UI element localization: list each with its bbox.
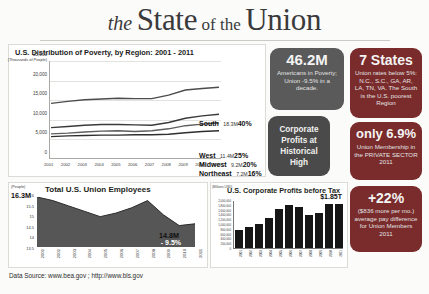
profits-y-tick: 800,000 [221,228,231,232]
union-y-tick: 15 [30,214,34,219]
poverty-x-tick: 2009 [178,162,187,167]
union-x-tick: 2001 [40,249,45,258]
profits-y-tick: 200,000 [221,242,231,246]
union-x-tick: 2010 [182,249,187,258]
poverty-x-tick: 2006 [128,162,137,167]
poverty-y-tick-25000: 25,000 [33,52,47,57]
profits-bar [285,205,292,248]
profits-x-tick: 2007 [299,250,303,257]
profits-bar [255,224,262,248]
profits-peak-value: $1.85T [320,193,342,200]
page-title: the State of the Union [0,2,429,42]
profits-x-tick: 2005 [279,250,283,257]
profits-bar [305,215,312,248]
profits-y-tick: 1,600,000 [218,209,231,213]
infographic-page: the State of the Union U.S. Distribution… [0,0,429,294]
poverty-line-series [49,61,221,159]
title-divider [40,40,390,41]
callout-private-sector-value: only 6.9% [354,126,418,142]
profits-bar [295,207,302,248]
callout-corporate-profits-high-text: Corporate Profits at Historical High [272,124,326,168]
union-employees-panel: Total U.S. Union Employees (People) 16.3… [8,182,208,268]
profits-bar [265,218,272,248]
callout-private-sector-membership: only 6.9% Union Membership in the PRIVAT… [350,122,422,180]
profits-y-tick: 600,000 [221,233,231,237]
profits-x-tick: 2002 [249,250,253,257]
profits-x-tick: 2009 [319,250,323,257]
profits-x-tick: 2011 [339,250,343,257]
profits-y-tick: 1,400,000 [218,213,231,217]
callout-pay-difference-value: +22% [354,190,418,206]
union-x-tick: 2004 [87,249,92,258]
profits-x-tick: 2010 [329,250,333,257]
series-label-northeast: Northeast 7.2M16% [199,167,262,178]
callout-seven-states-value: 7 States [354,52,418,68]
data-source-note: Data Source: www.bea.gov ; http://www.bl… [9,272,143,279]
poverty-x-tick: 2003 [78,162,87,167]
union-y-axis: 1615.51514.51413.5 [9,193,35,249]
poverty-x-tick: 2001 [44,162,53,167]
profits-bar [275,209,282,248]
callout-pay-difference: +22% ($836 more per mo.) average pay dif… [350,186,422,252]
poverty-x-tick: 2002 [61,162,70,167]
poverty-y-tick-10000: 10,000 [33,111,47,116]
profits-bars [233,201,343,249]
profits-bar [325,204,332,248]
profits-x-tick: 2004 [269,250,273,257]
profits-y-unit: (Millions USD) [212,185,232,189]
profits-x-axis: 2001200220032004200520062007200820092010… [233,250,343,266]
union-y-unit: (People) [11,185,25,189]
profits-y-tick: 0 [229,247,231,251]
profits-bar [235,230,242,248]
profits-y-tick: 1,200,000 [218,218,231,222]
profits-bar [335,204,342,248]
profits-y-axis: 2,000,0001,800,0001,600,0001,400,0001,20… [211,199,232,251]
poverty-x-tick: 2005 [111,162,120,167]
union-x-tick: 2009 [166,249,171,258]
union-x-tick: 2011 [198,249,203,258]
profits-x-tick: 2001 [239,250,243,257]
poverty-y-tick-5000: 5,000 [36,130,48,135]
poverty-y-tick-15000: 15,000 [33,91,47,96]
union-x-tick: 2002 [56,249,61,258]
profits-bar [245,227,252,248]
callout-seven-states-text: Union rates below 5%: N.C., S.C., GA, AR… [354,69,418,107]
poverty-chart-panel: U.S. Distribution of Poverty, by Region:… [8,44,266,177]
title-word-of-the: of the [202,15,241,34]
title-word-the: the [108,12,132,34]
profits-y-tick: 2,000,000 [218,199,231,203]
union-y-tick: 16 [30,193,34,198]
poverty-y-tick-0: 0 [44,150,47,155]
union-x-tick: 2005 [103,249,108,258]
profits-x-tick: 2006 [289,250,293,257]
poverty-x-tick: 2008 [162,162,171,167]
profits-y-tick: 400,000 [221,237,231,241]
profits-y-tick: 1,000,000 [218,223,231,227]
poverty-x-tick: 2004 [94,162,103,167]
callout-corporate-profits-high: Corporate Profits at Historical High [268,116,330,176]
callout-private-sector-text: Union Membership in the PRIVATE SECTOR 2… [354,143,418,166]
title-word-union: Union [245,2,321,37]
union-x-tick: 2008 [151,249,156,258]
union-y-tick: 14 [30,235,34,240]
callout-poverty-count-value: 46.2M [274,52,340,68]
callout-seven-states: 7 States Union rates below 5%: N.C., S.C… [350,48,422,118]
poverty-y-tick-20000: 20,000 [33,72,47,77]
profits-x-tick: 2008 [309,250,313,257]
callout-poverty-count: 46.2M Americans in Poverty; Union -9.5% … [270,48,344,110]
title-word-state: State [137,2,198,37]
poverty-x-axis: 2001200220032004200520062007200820092010… [49,161,221,173]
union-x-tick: 2007 [135,249,140,258]
union-chart-title: Total U.S. Union Employees [45,185,151,194]
union-y-tick: 14.5 [26,225,34,230]
corporate-profits-panel: U.S. Corporate Profits before Tax (Milli… [210,182,348,268]
poverty-y-axis: (Thousands of People) 25,000 20,000 15,0… [9,61,47,159]
poverty-y-unit: (Thousands of People) [8,58,47,62]
union-x-axis: 2001200220032004200520062007200820092010… [37,249,195,267]
union-y-tick: 13.5 [26,246,34,251]
callout-pay-difference-text: ($836 more per mo.) average pay differen… [354,207,418,237]
callout-poverty-count-text: Americans in Poverty; Union -9.5% in a d… [274,69,340,92]
union-y-tick: 15.5 [26,204,34,209]
union-x-tick: 2006 [119,249,124,258]
profits-y-tick: 1,800,000 [218,204,231,208]
